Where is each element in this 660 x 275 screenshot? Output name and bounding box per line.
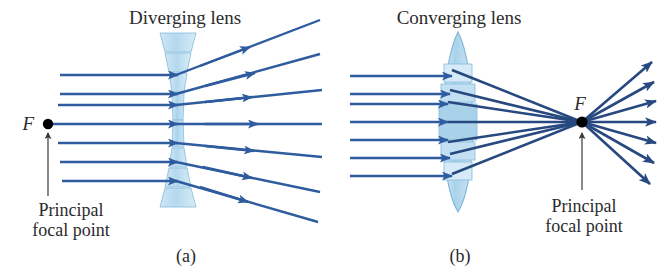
panel-converging: Converging lens <box>350 7 656 267</box>
lens-segment <box>160 188 196 207</box>
ray-post-focus <box>582 82 654 122</box>
ray-arrow <box>200 187 248 202</box>
ray-arrow <box>205 97 252 102</box>
lens-segment <box>160 33 196 52</box>
diverging-lens-title: Diverging lens <box>129 7 241 28</box>
post-focus-rays <box>582 62 656 184</box>
focal-point-dot-a <box>43 119 53 129</box>
ray-arrow <box>203 167 252 178</box>
panel-label-b: (b) <box>450 246 471 267</box>
ray-post-focus <box>582 122 654 163</box>
focal-point-symbol-a: F <box>21 113 34 134</box>
incoming-rays-diverging <box>48 75 178 181</box>
ray-arrow <box>205 146 254 151</box>
ray-arrow <box>205 73 255 86</box>
focal-point-label-b-line2: focal point <box>545 216 622 236</box>
ray-arrow <box>200 47 250 66</box>
focal-point-label-a-line2: focal point <box>32 220 109 240</box>
focal-point-label-a-line1: Principal <box>39 200 104 220</box>
lens-segment <box>165 53 191 72</box>
panel-diverging: Diverging lens <box>21 7 322 267</box>
outgoing-rays-diverging <box>176 20 322 222</box>
converging-lens-title: Converging lens <box>397 7 522 28</box>
lens-focal-point-figure: Diverging lens <box>0 0 660 275</box>
panel-label-a: (a) <box>176 246 196 267</box>
focal-point-label-b-line1: Principal <box>552 196 617 216</box>
focal-point-symbol-b: F <box>573 93 586 114</box>
focal-point-dot-b <box>576 116 587 127</box>
outgoing-ray-arrowheads-diverging <box>200 47 258 202</box>
lens-segment <box>172 93 184 120</box>
incoming-rays-converging <box>350 76 452 176</box>
